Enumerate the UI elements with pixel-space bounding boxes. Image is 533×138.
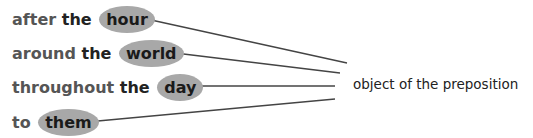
phrase-to-them: to them — [12, 109, 99, 136]
object-ellipse: them — [38, 109, 99, 136]
object-ellipse: day — [157, 74, 203, 101]
phrase-after-the-hour: after the hour — [12, 6, 155, 33]
arrow-them — [87, 99, 335, 122]
preposition: after — [12, 10, 56, 29]
phrase-throughout-the-day: throughout the day — [12, 74, 203, 101]
article: the — [120, 78, 150, 97]
article: the — [62, 10, 92, 29]
article: the — [82, 44, 112, 63]
object-label: object of the preposition — [353, 76, 518, 92]
preposition: around — [12, 44, 76, 63]
preposition: to — [12, 113, 31, 132]
preposition: throughout — [12, 78, 114, 97]
phrase-around-the-world: around the world — [12, 40, 184, 67]
object-ellipse: hour — [99, 6, 155, 33]
object-ellipse: world — [119, 40, 184, 67]
